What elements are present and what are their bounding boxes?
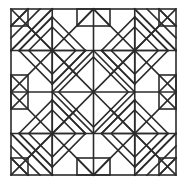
art-group <box>11 9 176 175</box>
pattern-canvas: Geometric Quilt Block Pattern Symmetric … <box>0 0 187 187</box>
quilt-block-drawing <box>0 0 187 187</box>
